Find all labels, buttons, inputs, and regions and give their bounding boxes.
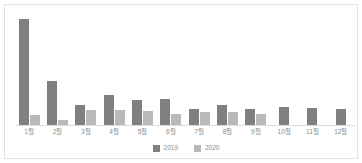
legend-item-2019[interactable]: 2019 bbox=[153, 144, 178, 152]
bar-group bbox=[327, 19, 355, 126]
bar-group bbox=[100, 19, 128, 126]
chart-frame: 1월2월3월4월5월6월7월8월9월10월11월12월 20192020 bbox=[4, 4, 358, 159]
bar-2019-9월[interactable] bbox=[245, 109, 255, 126]
x-axis-label-8월: 8월 bbox=[213, 127, 241, 137]
plot-area bbox=[15, 19, 355, 126]
legend-label-2019: 2019 bbox=[164, 144, 178, 152]
bar-2019-8월[interactable] bbox=[217, 105, 227, 126]
bar-2020-3월[interactable] bbox=[86, 110, 96, 126]
chart-legend: 20192020 bbox=[5, 144, 362, 152]
bar-group bbox=[298, 19, 326, 126]
bar-group bbox=[185, 19, 213, 126]
bar-2019-3월[interactable] bbox=[75, 105, 85, 126]
bar-2020-4월[interactable] bbox=[115, 110, 125, 126]
legend-swatch-2020 bbox=[194, 145, 201, 152]
axis-baseline bbox=[15, 125, 355, 126]
bar-2019-2월[interactable] bbox=[47, 81, 57, 126]
bar-2019-4월[interactable] bbox=[104, 95, 114, 126]
bar-group bbox=[213, 19, 241, 126]
x-axis-label-3월: 3월 bbox=[72, 127, 100, 137]
bar-2019-6월[interactable] bbox=[160, 99, 170, 126]
bar-2019-1월[interactable] bbox=[19, 19, 29, 126]
x-axis-label-2월: 2월 bbox=[43, 127, 71, 137]
bar-group bbox=[128, 19, 156, 126]
bar-2019-11월[interactable] bbox=[307, 108, 317, 126]
legend-swatch-2019 bbox=[153, 145, 160, 152]
x-axis-label-1월: 1월 bbox=[15, 127, 43, 137]
x-axis-label-7월: 7월 bbox=[185, 127, 213, 137]
bar-group bbox=[72, 19, 100, 126]
x-axis-label-4월: 4월 bbox=[100, 127, 128, 137]
bar-group bbox=[242, 19, 270, 126]
x-axis-label-10월: 10월 bbox=[270, 127, 298, 137]
legend-item-2020[interactable]: 2020 bbox=[194, 144, 219, 152]
legend-label-2020: 2020 bbox=[205, 144, 219, 152]
bar-2020-7월[interactable] bbox=[200, 112, 210, 126]
x-axis-label-9월: 9월 bbox=[242, 127, 270, 137]
bar-2020-5월[interactable] bbox=[143, 111, 153, 126]
bar-2019-7월[interactable] bbox=[189, 109, 199, 126]
x-axis-label-5월: 5월 bbox=[128, 127, 156, 137]
bar-2019-12월[interactable] bbox=[336, 109, 346, 126]
x-axis-labels: 1월2월3월4월5월6월7월8월9월10월11월12월 bbox=[15, 127, 355, 139]
bar-2019-10월[interactable] bbox=[279, 107, 289, 126]
bar-group bbox=[15, 19, 43, 126]
x-axis-label-6월: 6월 bbox=[157, 127, 185, 137]
bar-group bbox=[43, 19, 71, 126]
bar-group bbox=[270, 19, 298, 126]
bar-group bbox=[157, 19, 185, 126]
bar-2019-5월[interactable] bbox=[132, 100, 142, 126]
x-axis-label-11월: 11월 bbox=[298, 127, 326, 137]
bar-2020-8월[interactable] bbox=[228, 112, 238, 126]
x-axis-label-12월: 12월 bbox=[327, 127, 355, 137]
